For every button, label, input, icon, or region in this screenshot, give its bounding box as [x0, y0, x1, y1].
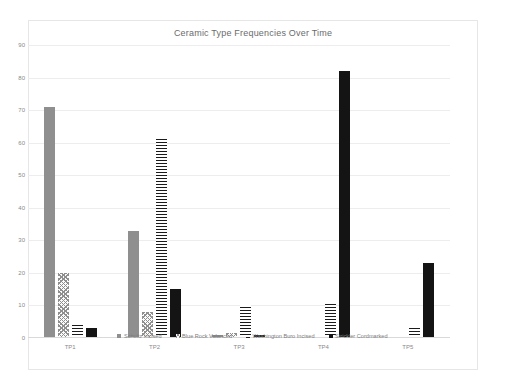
x-axis-tick: TP1: [65, 344, 76, 350]
legend-item: Schultz Incised: [117, 333, 161, 339]
legend-label: Strickler Cordmarked: [335, 333, 388, 339]
bar-group: [28, 45, 112, 338]
y-axis-tick: 30: [18, 237, 25, 243]
plot-area: [28, 45, 450, 338]
legend-label: Blue Rock Valanced: [182, 333, 232, 339]
legend-swatch-icon: [176, 334, 180, 338]
bar: [339, 71, 350, 338]
bar-group: [197, 45, 281, 338]
bar-groups: [28, 45, 450, 338]
legend-label: Washington Buro Incised: [253, 333, 315, 339]
y-axis-labels: 0102030405060708090: [0, 45, 25, 338]
bar: [423, 263, 434, 338]
x-axis-tick: TP2: [149, 344, 160, 350]
legend-item: Washington Buro Incised: [246, 333, 314, 339]
bar: [170, 289, 181, 338]
bar-group: [281, 45, 365, 338]
y-axis-tick: 40: [18, 205, 25, 211]
bar: [156, 139, 167, 338]
y-axis-tick: 90: [18, 42, 25, 48]
chart-legend: Schultz IncisedBlue Rock ValancedWashing…: [0, 333, 505, 339]
bar: [44, 107, 55, 338]
legend-swatch-icon: [329, 334, 333, 338]
legend-label: Schultz Incised: [124, 333, 162, 339]
x-axis-tick: TP4: [318, 344, 329, 350]
chart-title: Ceramic Type Frequencies Over Time: [29, 28, 477, 38]
y-axis-tick: 50: [18, 172, 25, 178]
legend-item: Blue Rock Valanced: [176, 333, 232, 339]
y-axis-tick: 60: [18, 140, 25, 146]
x-axis-tick: TP5: [402, 344, 413, 350]
y-axis-tick: 70: [18, 107, 25, 113]
x-axis-tick: TP3: [233, 344, 244, 350]
legend-swatch-icon: [246, 334, 250, 338]
y-axis-tick: 10: [18, 302, 25, 308]
y-axis-tick: 20: [18, 270, 25, 276]
bar-group: [366, 45, 450, 338]
legend-swatch-icon: [117, 334, 121, 338]
y-axis-tick: 80: [18, 75, 25, 81]
legend-item: Strickler Cordmarked: [329, 333, 388, 339]
bar-group: [112, 45, 196, 338]
bar: [58, 273, 69, 338]
bar: [128, 231, 139, 338]
